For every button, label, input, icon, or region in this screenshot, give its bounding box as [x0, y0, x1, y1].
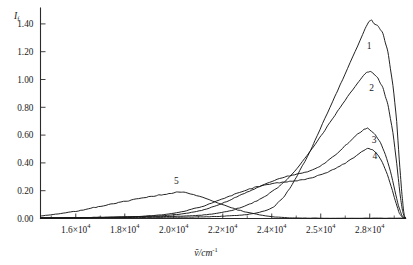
y-tick-label: 0.60: [17, 130, 34, 140]
curve-label-1: 1: [367, 41, 372, 51]
curve-label-3: 3: [372, 135, 377, 145]
x-axis-title: ṽ/cm-1: [194, 246, 218, 258]
y-tick-label: 1.20: [17, 47, 34, 57]
x-tick-label: 2.0×104: [159, 222, 189, 234]
y-tick-label: 0.00: [17, 214, 34, 224]
y-axis-title: If: [13, 10, 20, 22]
fluorescence-spectrum-figure: 1.6×1041.8×1042.0×1042.2×1042.4×1042.5×1…: [0, 0, 413, 265]
x-tick-label: 1.8×104: [110, 222, 140, 234]
x-tick-label: 2.4×104: [257, 222, 287, 234]
y-tick-label: 1.00: [17, 75, 34, 85]
y-tick-label: 0.20: [17, 186, 34, 196]
y-tick-label: 1.40: [17, 19, 34, 29]
curve-labels: 12345: [174, 41, 377, 187]
spectrum-curve-1: [41, 20, 406, 218]
y-tick-label: 0.40: [17, 158, 34, 168]
y-axis-tick-labels: 0.000.200.400.600.801.001.201.40: [17, 19, 34, 224]
x-tick-label: 2.8×104: [355, 222, 385, 234]
y-tick-label: 0.80: [17, 103, 34, 113]
curve-label-5: 5: [174, 176, 179, 186]
spectrum-chart: 1.6×1041.8×1042.0×1042.2×1042.4×1042.5×1…: [0, 0, 413, 265]
curve-label-4: 4: [372, 151, 377, 161]
chart-curves: [41, 20, 406, 218]
chart-axes: [41, 8, 406, 219]
x-tick-label: 2.2×104: [208, 222, 238, 234]
x-tick-label: 1.6×104: [61, 222, 91, 234]
curve-label-2: 2: [369, 83, 374, 93]
spectrum-curve-2: [41, 71, 406, 217]
x-axis-tick-labels: 1.6×1041.8×1042.0×1042.2×1042.4×1042.5×1…: [61, 222, 385, 234]
x-tick-label: 2.5×104: [306, 222, 336, 234]
